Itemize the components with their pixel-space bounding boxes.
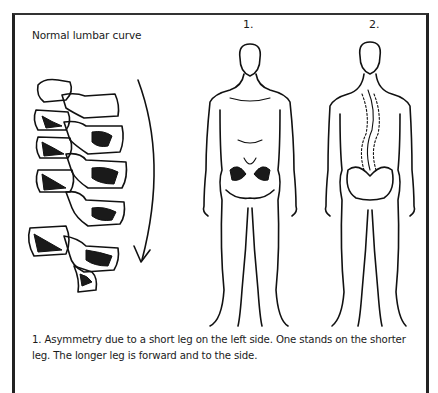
pelvis-front: [226, 158, 274, 198]
figure-caption: 1. Asymmetry due to a short leg on the l…: [32, 332, 417, 364]
curve-arrow-icon: [134, 80, 154, 262]
figure-title: Normal lumbar curve: [32, 29, 141, 41]
curved-spine: [361, 90, 379, 170]
figure-1-front-view: [180, 30, 320, 330]
pelvis-back: [347, 167, 393, 200]
figure-2-back-view: [300, 30, 438, 330]
vertebrae-stack: [29, 80, 127, 292]
lumbar-spine-illustration: [0, 60, 180, 300]
